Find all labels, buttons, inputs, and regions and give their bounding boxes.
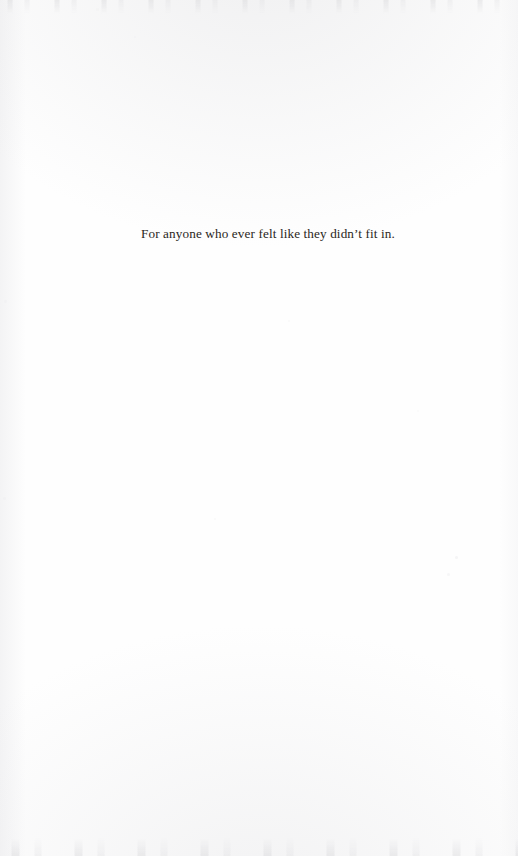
dedication-page: For anyone who ever felt like they didn’… [0,0,518,856]
scan-speck [447,573,450,576]
scan-speck [96,8,99,11]
scan-speck [417,410,419,412]
scan-speck [134,36,136,38]
scan-speck [306,6,309,9]
scan-speck [214,518,216,520]
scan-speck [4,300,7,303]
scan-noise-top-edge [0,0,518,14]
scan-speck [3,497,6,500]
scan-speck [455,556,458,559]
paper-tone-overlay [0,0,518,856]
dedication-text: For anyone who ever felt like they didn’… [141,225,395,243]
dedication-block: For anyone who ever felt like they didn’… [0,224,518,243]
scan-noise-bottom-edge [0,838,518,856]
scan-speck [288,320,290,322]
